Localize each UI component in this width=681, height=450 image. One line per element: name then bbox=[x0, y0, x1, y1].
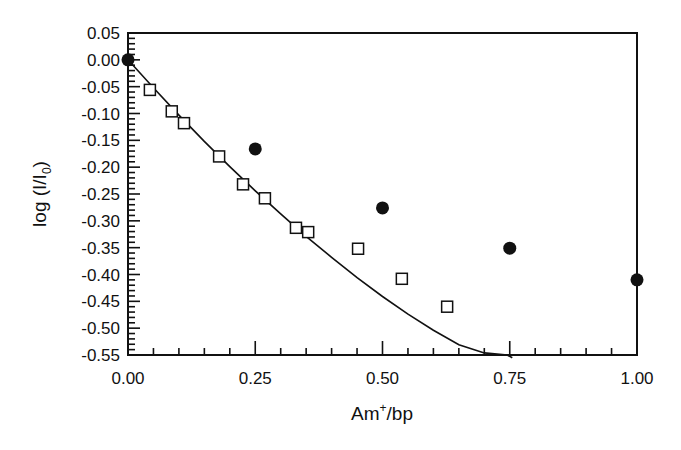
y-tick-label: -0.55 bbox=[81, 346, 120, 365]
x-tick-label: 0.75 bbox=[493, 369, 526, 388]
y-axis-title: log (I/I0) bbox=[29, 161, 54, 227]
open-square-marker bbox=[238, 179, 249, 190]
y-tick-label: -0.15 bbox=[81, 131, 120, 150]
y-tick-label: 0.05 bbox=[87, 24, 120, 43]
open-square-marker bbox=[144, 84, 155, 95]
open-square-marker bbox=[259, 193, 270, 204]
plot-frame bbox=[128, 33, 637, 355]
y-tick-label: -0.40 bbox=[81, 266, 120, 285]
x-tick-label: 1.00 bbox=[620, 369, 653, 388]
y-tick-label: -0.35 bbox=[81, 239, 120, 258]
filled-circle-markers bbox=[122, 53, 644, 286]
x-tick-label: 0.50 bbox=[366, 369, 399, 388]
y-tick-label: -0.50 bbox=[81, 319, 120, 338]
y-tick-label: -0.05 bbox=[81, 78, 120, 97]
x-axis-title: Am+/bp bbox=[351, 401, 413, 424]
x-axis-tick-labels: 0.000.250.500.751.00 bbox=[111, 369, 653, 388]
y-tick-label: -0.20 bbox=[81, 158, 120, 177]
y-tick-label: -0.45 bbox=[81, 292, 120, 311]
open-square-marker bbox=[442, 301, 453, 312]
open-square-markers bbox=[144, 84, 452, 312]
y-axis-tick-labels: 0.050.00-0.05-0.10-0.15-0.20-0.25-0.30-0… bbox=[81, 24, 120, 365]
open-square-marker bbox=[166, 106, 177, 117]
y-tick-label: -0.25 bbox=[81, 185, 120, 204]
y-tick-label: -0.30 bbox=[81, 212, 120, 231]
open-square-marker bbox=[353, 243, 364, 254]
minor-ticks bbox=[128, 38, 612, 355]
filled-circle-marker bbox=[122, 53, 135, 66]
chart: 0.050.00-0.05-0.10-0.15-0.20-0.25-0.30-0… bbox=[0, 0, 681, 450]
open-square-marker bbox=[214, 151, 225, 162]
x-tick-label: 0.25 bbox=[239, 369, 272, 388]
major-ticks bbox=[128, 33, 637, 355]
filled-circle-marker bbox=[503, 242, 516, 255]
filled-circle-marker bbox=[631, 273, 644, 286]
y-tick-label: -0.10 bbox=[81, 105, 120, 124]
open-square-marker bbox=[303, 227, 314, 238]
open-square-marker bbox=[290, 222, 301, 233]
open-square-marker bbox=[178, 118, 189, 129]
fit-curve bbox=[128, 60, 512, 358]
open-square-marker bbox=[396, 273, 407, 284]
y-tick-label: 0.00 bbox=[87, 51, 120, 70]
x-tick-label: 0.00 bbox=[111, 369, 144, 388]
filled-circle-marker bbox=[249, 142, 262, 155]
filled-circle-marker bbox=[376, 201, 389, 214]
